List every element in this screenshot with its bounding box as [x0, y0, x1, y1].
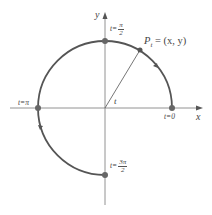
point-pt-label: Pt = (x, y) — [144, 36, 186, 49]
prefix: t= — [110, 24, 117, 33]
denominator: 2 — [119, 30, 123, 37]
unit-circle-diagram — [0, 0, 212, 215]
x-axis-arrow-icon — [196, 106, 203, 111]
radius-line — [105, 50, 140, 108]
point-t0 — [169, 105, 175, 111]
marker-t-pi-half-label: t=π2 — [110, 22, 124, 37]
point-t-pi — [35, 105, 41, 111]
x-axis-label: x — [196, 112, 200, 122]
pt-coords: = (x, y) — [152, 35, 186, 46]
denominator: 2 — [121, 167, 125, 174]
marker-t-pi-label: t=π — [18, 99, 29, 107]
marker-t0-label: t=0 — [164, 113, 175, 121]
marker-t-3pi-half-label: t=3π2 — [110, 159, 127, 174]
y-axis-label: y — [95, 10, 99, 20]
point-pt — [138, 48, 143, 53]
point-t-3pi-half — [102, 172, 108, 178]
prefix: t= — [110, 161, 117, 170]
direction-arrow-icon — [38, 125, 43, 130]
fraction: 3π2 — [118, 159, 127, 174]
fraction: π2 — [118, 22, 124, 37]
angle-label: t — [114, 97, 117, 106]
y-axis-arrow-icon — [103, 12, 108, 19]
point-t-pi-half — [102, 38, 108, 44]
